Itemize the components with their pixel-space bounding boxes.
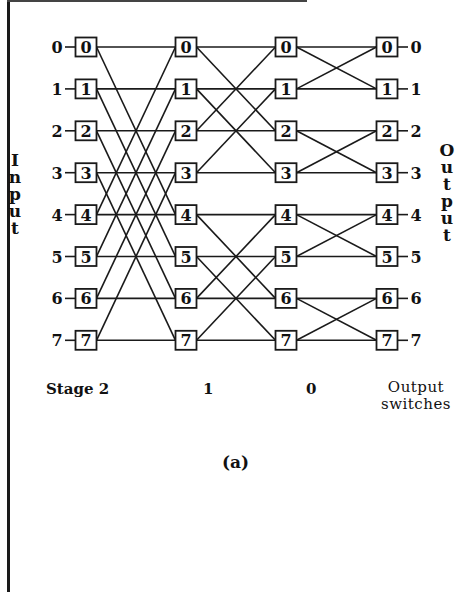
output-switches-switch-5: 5 xyxy=(377,247,398,267)
svg-text:6: 6 xyxy=(280,289,291,308)
svg-text:0: 0 xyxy=(280,38,291,57)
vertical-letter: t xyxy=(5,220,25,237)
output-switches-switch-2: 2 xyxy=(377,121,398,141)
input-number: 6 xyxy=(51,289,62,308)
output-number: 0 xyxy=(410,38,421,57)
svg-text:4: 4 xyxy=(381,206,392,225)
input-number: 5 xyxy=(51,248,62,267)
svg-text:4: 4 xyxy=(80,206,91,225)
output-number: 7 xyxy=(410,331,421,350)
stage-0-switch-4: 4 xyxy=(276,205,297,225)
input-number: 3 xyxy=(51,164,62,183)
svg-text:3: 3 xyxy=(180,164,191,183)
input-number: 2 xyxy=(51,122,62,141)
svg-text:0: 0 xyxy=(381,38,392,57)
input-number: 1 xyxy=(51,80,62,99)
svg-text:6: 6 xyxy=(80,289,91,308)
svg-text:2: 2 xyxy=(280,122,291,141)
svg-text:2: 2 xyxy=(180,122,191,141)
svg-text:7: 7 xyxy=(280,331,291,350)
stage-0-switch-1: 1 xyxy=(276,79,297,99)
stage-1-label: 1 xyxy=(203,380,213,398)
stage-1-switch-4: 4 xyxy=(176,205,197,225)
svg-text:4: 4 xyxy=(280,206,291,225)
svg-text:2: 2 xyxy=(381,122,392,141)
output-axis-label: Output xyxy=(437,142,457,244)
output-number: 6 xyxy=(410,289,421,308)
svg-text:1: 1 xyxy=(80,80,91,99)
stage-2-label: Stage 2 xyxy=(46,380,109,398)
vertical-letter: t xyxy=(437,227,457,244)
svg-text:5: 5 xyxy=(80,248,91,267)
input-number: 4 xyxy=(51,206,62,225)
stage-2-switch-2: 2 xyxy=(76,121,97,141)
svg-text:5: 5 xyxy=(381,248,392,267)
output-switches-switch-7: 7 xyxy=(377,331,398,351)
butterfly-network: 0011223344556677012345670123456701234567… xyxy=(0,0,472,400)
output-switches-label: Output switches xyxy=(368,379,464,413)
output-number: 4 xyxy=(410,206,421,225)
output-switches-line2: switches xyxy=(368,396,464,413)
svg-text:1: 1 xyxy=(381,80,392,99)
stage-0-label: 0 xyxy=(306,380,316,398)
svg-text:3: 3 xyxy=(381,164,392,183)
svg-text:7: 7 xyxy=(381,331,392,350)
svg-text:7: 7 xyxy=(180,331,191,350)
svg-text:1: 1 xyxy=(180,80,191,99)
input-number: 7 xyxy=(51,331,62,350)
stage-2-switch-4: 4 xyxy=(76,205,97,225)
stage-2-switch-0: 0 xyxy=(76,38,97,58)
output-number: 2 xyxy=(410,122,421,141)
stage-2-switch-6: 6 xyxy=(76,289,97,309)
stage-1-switch-1: 1 xyxy=(176,79,197,99)
stage-0-switch-5: 5 xyxy=(276,247,297,267)
svg-text:6: 6 xyxy=(180,289,191,308)
stage-0-switch-6: 6 xyxy=(276,289,297,309)
input-axis-label: Input xyxy=(5,152,25,237)
output-number: 5 xyxy=(410,248,421,267)
stage-1-switch-5: 5 xyxy=(176,247,197,267)
svg-text:2: 2 xyxy=(80,122,91,141)
svg-text:1: 1 xyxy=(280,80,291,99)
stage-0-switch-3: 3 xyxy=(276,163,297,183)
stage-0-switch-0: 0 xyxy=(276,38,297,58)
output-switches-line1: Output xyxy=(368,379,464,396)
stage-1-switch-6: 6 xyxy=(176,289,197,309)
stage-2-switch-5: 5 xyxy=(76,247,97,267)
stage-2-switch-7: 7 xyxy=(76,331,97,351)
svg-text:0: 0 xyxy=(80,38,91,57)
output-switches-switch-4: 4 xyxy=(377,205,398,225)
input-number: 0 xyxy=(51,38,62,57)
stage-1-switch-0: 0 xyxy=(176,38,197,58)
stage-0-switch-7: 7 xyxy=(276,331,297,351)
output-switches-switch-0: 0 xyxy=(377,38,398,58)
stage-1-switch-2: 2 xyxy=(176,121,197,141)
svg-text:5: 5 xyxy=(180,248,191,267)
figure-caption: (a) xyxy=(222,452,249,472)
output-switches-switch-1: 1 xyxy=(377,79,398,99)
svg-text:5: 5 xyxy=(280,248,291,267)
stage-2-switch-1: 1 xyxy=(76,79,97,99)
svg-text:7: 7 xyxy=(80,331,91,350)
svg-text:6: 6 xyxy=(381,289,392,308)
stage-1-switch-7: 7 xyxy=(176,331,197,351)
output-number: 1 xyxy=(410,80,421,99)
svg-text:3: 3 xyxy=(80,164,91,183)
stage-1-switch-3: 3 xyxy=(176,163,197,183)
stage-2-switch-3: 3 xyxy=(76,163,97,183)
output-switches-switch-3: 3 xyxy=(377,163,398,183)
output-number: 3 xyxy=(410,164,421,183)
stage-0-switch-2: 2 xyxy=(276,121,297,141)
svg-text:4: 4 xyxy=(180,206,191,225)
output-switches-switch-6: 6 xyxy=(377,289,398,309)
svg-text:3: 3 xyxy=(280,164,291,183)
svg-text:0: 0 xyxy=(180,38,191,57)
